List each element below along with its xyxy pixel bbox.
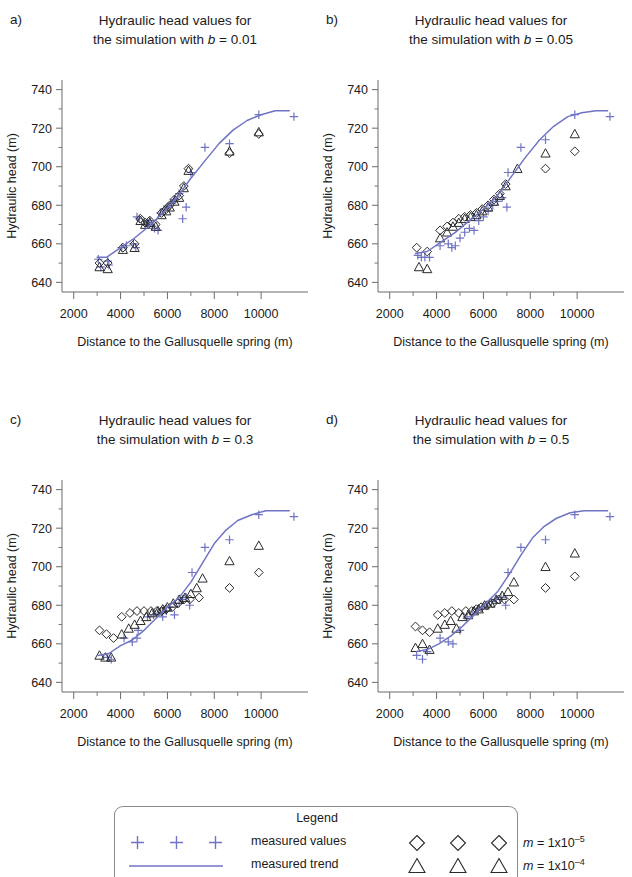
panel-c-title: Hydraulic head values for the simulation… [42, 411, 308, 449]
y-tick-label: 700 [347, 560, 368, 574]
x-axis-label: Distance to the Gallusquelle spring (m) [77, 735, 292, 749]
y-tick-label: 680 [347, 599, 368, 613]
panel-d-title-line2-pre: the simulation with [413, 432, 528, 447]
x-tick-label: 4000 [423, 307, 451, 321]
panel-c: c) Hydraulic head values for the simulat… [0, 400, 316, 800]
y-tick-label: 740 [31, 483, 52, 497]
y-axis-label: Hydraulic head (m) [5, 533, 19, 639]
x-tick-label: 6000 [154, 707, 182, 721]
y-tick-label: 720 [31, 522, 52, 536]
panel-a-plot: 640660680700720740200040006000800010000D… [0, 60, 316, 400]
y-tick-label: 640 [347, 676, 368, 690]
x-tick-label: 4000 [107, 707, 135, 721]
y-tick-label: 700 [31, 160, 52, 174]
y-tick-label: 720 [31, 122, 52, 136]
panel-d-title-line1: Hydraulic head values for [415, 413, 567, 428]
legend-label-m-1e-5: m = 1x10–5 [523, 834, 585, 850]
panel-d-title: Hydraulic head values for the simulation… [358, 411, 624, 449]
x-tick-label: 8000 [516, 307, 544, 321]
panel-d-title-line2-post: = 0.5 [535, 432, 569, 447]
x-tick-label: 8000 [200, 707, 228, 721]
panel-d: d) Hydraulic head values for the simulat… [316, 400, 632, 800]
y-tick-label: 660 [31, 637, 52, 651]
panel-a-title-line1: Hydraulic head values for [99, 13, 251, 28]
x-tick-label: 6000 [470, 307, 498, 321]
panel-b-letter: b) [326, 12, 338, 27]
panel-d-title-row: d) Hydraulic head values for the simulat… [316, 408, 632, 460]
panel-d-plot: 640660680700720740200040006000800010000D… [316, 460, 632, 800]
x-tick-label: 2000 [60, 307, 88, 321]
y-axis-label: Hydraulic head (m) [321, 133, 335, 239]
x-axis-label: Distance to the Gallusquelle spring (m) [393, 735, 608, 749]
panel-b-title-line2-pre: the simulation with [409, 32, 524, 47]
panel-a-title-line2-post: = 0.01 [215, 32, 257, 47]
diamond-marker-icon [405, 831, 515, 854]
x-tick-label: 10000 [560, 307, 595, 321]
legend-title: Legend [115, 811, 519, 825]
panel-b-title-line2-post: = 0.05 [531, 32, 573, 47]
x-tick-label: 10000 [244, 307, 279, 321]
panel-a-title-line2-pre: the simulation with [93, 32, 208, 47]
x-tick-label: 10000 [560, 707, 595, 721]
y-tick-label: 660 [347, 637, 368, 651]
panel-c-title-line2-post: = 0.3 [219, 432, 253, 447]
y-tick-label: 660 [347, 237, 368, 251]
x-tick-label: 4000 [107, 307, 135, 321]
panel-c-title-row: c) Hydraulic head values for the simulat… [0, 408, 316, 460]
y-tick-label: 640 [31, 276, 52, 290]
panel-c-plot: 640660680700720740200040006000800010000D… [0, 460, 316, 800]
panel-a-svg: 640660680700720740200040006000800010000D… [0, 60, 316, 400]
y-tick-label: 680 [347, 199, 368, 213]
triangle-marker-icon [405, 854, 515, 877]
plus-marker-icon [123, 831, 245, 854]
panel-c-title-line1: Hydraulic head values for [99, 413, 251, 428]
y-axis-label: Hydraulic head (m) [321, 533, 335, 639]
y-tick-label: 680 [31, 599, 52, 613]
panel-b-title: Hydraulic head values for the simulation… [358, 11, 624, 49]
legend-row-measured-values: measured values m = 1x10–5 [115, 831, 519, 854]
trend-line-icon [123, 854, 245, 877]
y-tick-label: 720 [347, 522, 368, 536]
x-axis-label: Distance to the Gallusquelle spring (m) [393, 335, 608, 349]
panel-a-letter: a) [10, 12, 22, 27]
panel-a-title-row: a) Hydraulic head values for the simulat… [0, 8, 316, 60]
series-plus [414, 110, 615, 261]
y-tick-label: 640 [347, 276, 368, 290]
x-tick-label: 8000 [200, 307, 228, 321]
legend-label-measured-values: measured values [251, 834, 346, 848]
panel-b: b) Hydraulic head values for the simulat… [316, 0, 632, 400]
y-tick-label: 640 [31, 676, 52, 690]
panel-b-plot: 640660680700720740200040006000800010000D… [316, 60, 632, 400]
legend-label-m-1e-4: m = 1x10–4 [523, 857, 585, 873]
y-tick-label: 700 [347, 160, 368, 174]
trend-line [97, 111, 289, 257]
panel-d-title-param: b [528, 432, 536, 447]
panel-b-title-line1: Hydraulic head values for [415, 13, 567, 28]
panel-d-svg: 640660680700720740200040006000800010000D… [316, 460, 632, 800]
panel-c-letter: c) [10, 412, 21, 427]
panel-d-letter: d) [326, 412, 338, 427]
x-tick-label: 6000 [154, 307, 182, 321]
panel-a-title: Hydraulic head values for the simulation… [42, 11, 308, 49]
legend-row-measured-trend: measured trend m = 1x10–4 [115, 854, 519, 877]
x-tick-label: 4000 [423, 707, 451, 721]
panel-c-title-param: b [212, 432, 220, 447]
y-tick-label: 720 [347, 122, 368, 136]
panel-b-svg: 640660680700720740200040006000800010000D… [316, 60, 632, 400]
panel-c-svg: 640660680700720740200040006000800010000D… [0, 460, 316, 800]
series-diamond [95, 130, 263, 268]
x-axis-label: Distance to the Gallusquelle spring (m) [77, 335, 292, 349]
x-tick-label: 6000 [470, 707, 498, 721]
legend-grid: measured values m = 1x10–5 measured tren… [115, 831, 519, 877]
series-plus [94, 110, 298, 271]
legend: Legend measured values m = 1x10–5 [114, 806, 518, 877]
x-tick-label: 2000 [376, 307, 404, 321]
y-tick-label: 740 [347, 83, 368, 97]
x-tick-label: 2000 [60, 707, 88, 721]
legend-label-measured-trend: measured trend [251, 857, 339, 871]
y-tick-label: 740 [31, 83, 52, 97]
y-tick-label: 660 [31, 237, 52, 251]
trend-line [98, 511, 289, 656]
panel-c-title-line2-pre: the simulation with [97, 432, 212, 447]
y-tick-label: 680 [31, 199, 52, 213]
